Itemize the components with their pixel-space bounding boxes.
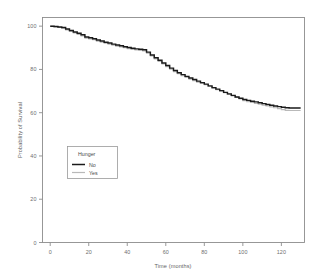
y-tick-label: 80 [30, 66, 36, 72]
x-tick-label: 100 [238, 249, 247, 255]
survival-chart-figure: 020406080100120 020406080100 Time (month… [0, 0, 321, 278]
x-tick-label: 60 [163, 249, 169, 255]
x-tick-label: 20 [86, 249, 92, 255]
x-tick-label: 120 [277, 249, 286, 255]
legend-label-no: No [89, 162, 96, 168]
x-axis-title: Time (months) [154, 263, 191, 269]
y-tick-label: 20 [30, 196, 36, 202]
y-tick-label: 0 [33, 240, 36, 246]
legend-title: Hunger [78, 151, 96, 157]
legend-label-yes: Yes [89, 170, 98, 176]
x-tick-label: 0 [49, 249, 52, 255]
legend[interactable]: Hunger No Yes [68, 147, 118, 179]
y-tick-label: 40 [30, 153, 36, 159]
figure-background [0, 0, 321, 278]
y-tick-label: 100 [27, 23, 36, 29]
x-tick-label: 80 [201, 249, 207, 255]
survival-plot-svg: 020406080100120 020406080100 Time (month… [0, 0, 321, 278]
y-axis-title: Probability of Survival [17, 102, 23, 158]
y-tick-label: 60 [30, 110, 36, 116]
x-tick-label: 40 [124, 249, 130, 255]
